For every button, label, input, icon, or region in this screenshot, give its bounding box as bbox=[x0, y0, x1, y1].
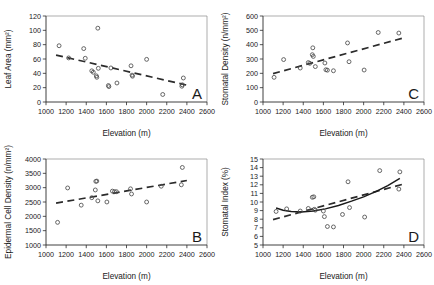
x-tick-label: 1200 bbox=[275, 250, 291, 259]
x-tick-label: 1600 bbox=[315, 107, 331, 116]
y-tick-label: 14 bbox=[250, 163, 258, 172]
x-tick-label: 1800 bbox=[119, 107, 135, 116]
y-tick-label: 100 bbox=[29, 26, 41, 35]
data-point bbox=[348, 206, 352, 210]
data-point bbox=[325, 225, 329, 229]
x-tick-label: 2600 bbox=[416, 107, 432, 116]
trend-line-linear-dashed bbox=[56, 181, 187, 204]
y-tick-label: 5 bbox=[254, 241, 258, 250]
data-point bbox=[272, 75, 276, 79]
x-axis-title: Elevation (m) bbox=[102, 272, 151, 281]
y-tick-label: 200 bbox=[246, 69, 258, 78]
x-axis-title: Elevation (m) bbox=[319, 129, 368, 138]
trend-line-quadratic-solid bbox=[276, 178, 400, 212]
x-tick-label: 1400 bbox=[295, 107, 311, 116]
data-point bbox=[274, 210, 278, 214]
data-point bbox=[56, 220, 60, 224]
data-point bbox=[331, 69, 335, 73]
data-point bbox=[115, 81, 119, 85]
panel-letter: D bbox=[408, 228, 419, 245]
four-panel-scatter-figure: 1000120014001600180020002200240026000204… bbox=[0, 0, 434, 285]
x-axis-title: Elevation (m) bbox=[319, 272, 368, 281]
y-tick-label: 12 bbox=[250, 180, 258, 189]
y-tick-label: 0 bbox=[37, 98, 41, 107]
x-tick-label: 2200 bbox=[376, 107, 392, 116]
data-point bbox=[57, 44, 61, 48]
x-axis-title: Elevation (m) bbox=[102, 129, 151, 138]
x-tick-label: 1400 bbox=[295, 250, 311, 259]
x-tick-label: 1400 bbox=[78, 107, 94, 116]
y-tick-label: 20 bbox=[33, 83, 41, 92]
x-tick-label: 2600 bbox=[199, 107, 215, 116]
data-point bbox=[376, 31, 380, 35]
trend-line-linear-dashed bbox=[56, 55, 187, 85]
data-point bbox=[130, 192, 134, 196]
y-tick-label: 13 bbox=[250, 172, 258, 181]
x-tick-label: 1400 bbox=[78, 250, 94, 259]
x-tick-label: 2400 bbox=[179, 250, 195, 259]
x-tick-label: 1000 bbox=[255, 250, 271, 259]
data-point bbox=[96, 199, 100, 203]
data-point bbox=[346, 180, 350, 184]
y-tick-label: 7 bbox=[254, 223, 258, 232]
data-point bbox=[397, 187, 401, 191]
y-tick-label: 40 bbox=[33, 69, 41, 78]
data-point bbox=[145, 200, 149, 204]
trend-line-linear-dashed bbox=[273, 38, 404, 74]
y-tick-label: 8 bbox=[254, 215, 258, 224]
panel-letter: A bbox=[192, 85, 202, 102]
y-axis-title: Leaf Area (mm²) bbox=[4, 29, 13, 88]
data-point bbox=[363, 215, 367, 219]
y-tick-label: 60 bbox=[33, 55, 41, 64]
x-tick-label: 1200 bbox=[275, 107, 291, 116]
data-point bbox=[82, 47, 86, 51]
x-tick-label: 2000 bbox=[356, 250, 372, 259]
x-tick-label: 2000 bbox=[356, 107, 372, 116]
y-tick-label: 400 bbox=[246, 40, 258, 49]
x-tick-label: 2000 bbox=[139, 107, 155, 116]
y-tick-label: 500 bbox=[246, 26, 258, 35]
data-point bbox=[322, 215, 326, 219]
data-point bbox=[397, 31, 401, 35]
y-tick-label: 3000 bbox=[25, 183, 41, 192]
x-tick-label: 2400 bbox=[179, 107, 195, 116]
data-point bbox=[181, 76, 185, 80]
x-tick-label: 2200 bbox=[159, 107, 175, 116]
data-point bbox=[313, 65, 317, 69]
data-point bbox=[331, 225, 335, 229]
x-tick-label: 1000 bbox=[255, 107, 271, 116]
y-tick-label: 300 bbox=[246, 55, 258, 64]
data-point bbox=[83, 56, 87, 60]
data-point bbox=[323, 61, 327, 65]
x-tick-label: 2000 bbox=[139, 250, 155, 259]
data-point bbox=[96, 26, 100, 30]
data-point bbox=[398, 170, 402, 174]
data-point bbox=[311, 46, 315, 50]
y-tick-label: 15 bbox=[250, 155, 258, 164]
x-tick-label: 2200 bbox=[376, 250, 392, 259]
data-point bbox=[129, 64, 133, 68]
y-tick-label: 1500 bbox=[25, 226, 41, 235]
x-tick-label: 2600 bbox=[199, 250, 215, 259]
panel-letter: C bbox=[408, 85, 419, 102]
y-axis-title: Stomatal Index (%) bbox=[221, 167, 230, 237]
panel-a: 1000120014001600180020002200240026000204… bbox=[0, 0, 217, 142]
y-tick-label: 2500 bbox=[25, 198, 41, 207]
panel-d: 1000120014001600180020002200240026005678… bbox=[217, 143, 434, 285]
data-point bbox=[362, 68, 366, 72]
data-point bbox=[347, 60, 351, 64]
data-point bbox=[282, 58, 286, 62]
x-tick-label: 1800 bbox=[336, 107, 352, 116]
panel-letter: B bbox=[192, 228, 202, 245]
y-tick-label: 2000 bbox=[25, 212, 41, 221]
y-tick-label: 1000 bbox=[25, 241, 41, 250]
y-tick-label: 600 bbox=[246, 12, 258, 21]
x-tick-label: 1600 bbox=[98, 107, 114, 116]
x-tick-label: 1600 bbox=[98, 250, 114, 259]
x-tick-label: 2400 bbox=[396, 107, 412, 116]
y-tick-label: 120 bbox=[29, 12, 41, 21]
x-tick-label: 2400 bbox=[396, 250, 412, 259]
y-tick-label: 4000 bbox=[25, 155, 41, 164]
data-point bbox=[96, 66, 100, 70]
trend-line-linear-dashed bbox=[273, 184, 404, 220]
